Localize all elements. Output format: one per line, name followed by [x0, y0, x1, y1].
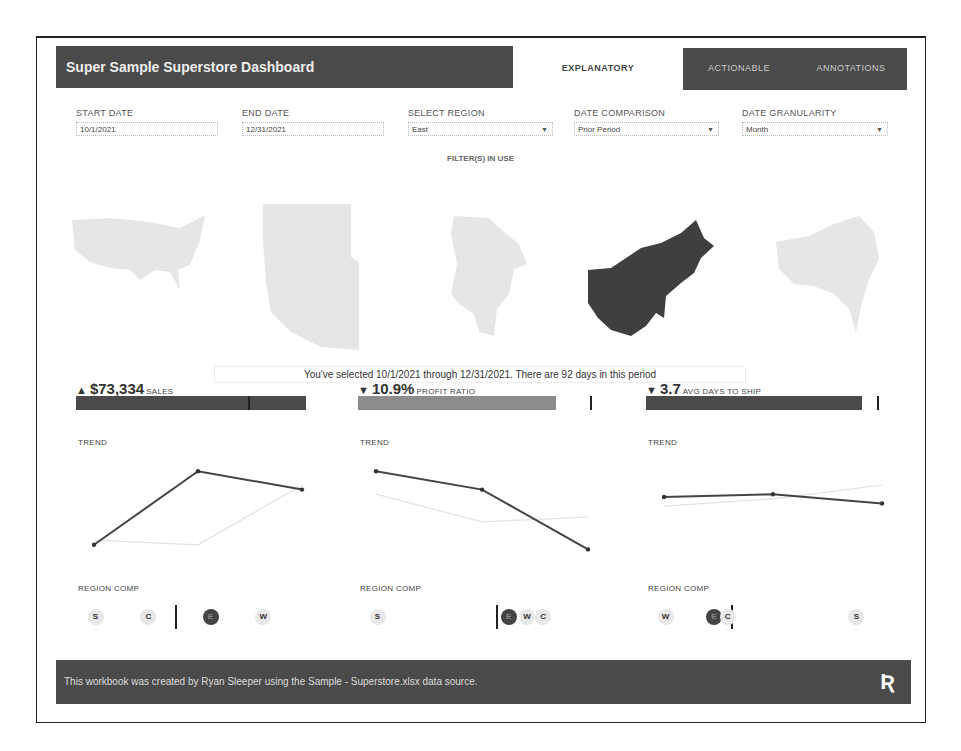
- start-date-input[interactable]: 10/1/2021: [76, 122, 218, 136]
- filters-in-use-label: FILTER(S) IN USE: [0, 154, 961, 163]
- tab-group: ACTIONABLE ANNOTATIONS: [683, 48, 907, 90]
- region-bubble-s[interactable]: S: [370, 609, 386, 625]
- down-arrow-icon: ▼: [646, 384, 657, 396]
- region-select[interactable]: East ▼: [408, 122, 553, 136]
- map-shape-east[interactable]: [588, 220, 714, 336]
- trend-point[interactable]: [92, 543, 96, 547]
- up-arrow-icon: ▲: [76, 384, 87, 396]
- trend-line-prior: [376, 494, 588, 522]
- trend-chart: [660, 458, 886, 558]
- date-granularity-filter: DATE GRANULARITY Month ▼: [742, 108, 888, 136]
- header: Super Sample Superstore Dashboard EXPLAN…: [56, 46, 903, 90]
- start-date-label: START DATE: [76, 108, 218, 118]
- map-shape-all[interactable]: [72, 215, 205, 290]
- kpi-name: AVG DAYS TO SHIP: [683, 387, 761, 396]
- map-shape-south[interactable]: [776, 216, 879, 332]
- region-select-value: East: [412, 125, 428, 134]
- kpi-bar: [358, 396, 556, 410]
- date-comparison-label: DATE COMPARISON: [574, 108, 719, 118]
- kpi-bar: [646, 396, 862, 410]
- region-bubble-e[interactable]: E: [501, 609, 517, 625]
- region-bubble-s[interactable]: S: [88, 609, 104, 625]
- map-south[interactable]: [774, 214, 884, 334]
- region-comp-label: REGION COMP: [78, 584, 139, 593]
- tab-annotations[interactable]: ANNOTATIONS: [795, 48, 907, 88]
- region-bubble-w[interactable]: W: [519, 609, 535, 625]
- kpi-value-text: $73,334: [90, 380, 144, 397]
- filter-bar: START DATE 10/1/2021 END DATE 12/31/2021…: [76, 108, 896, 148]
- map-west[interactable]: [261, 202, 361, 352]
- kpi-target-tick: [248, 396, 250, 410]
- region-filter: SELECT REGION East ▼: [408, 108, 553, 136]
- kpi-value-text: 10.9%: [372, 380, 415, 397]
- region-bubble-e[interactable]: E: [203, 609, 219, 625]
- region-bubble-c[interactable]: C: [720, 609, 736, 625]
- kpi-value: ▲$73,334: [76, 380, 144, 397]
- trend-point[interactable]: [586, 547, 590, 551]
- footer: This workbook was created by Ryan Sleepe…: [56, 660, 911, 704]
- logo-icon: Ʀ: [880, 660, 895, 704]
- map-east[interactable]: [586, 218, 731, 336]
- end-date-label: END DATE: [242, 108, 384, 118]
- map-central[interactable]: [449, 214, 529, 339]
- region-bubble-w[interactable]: W: [658, 609, 674, 625]
- trend-chart: [90, 458, 306, 558]
- end-date-input[interactable]: 12/31/2021: [242, 122, 384, 136]
- region-bubble-c[interactable]: C: [535, 609, 551, 625]
- kpi-value: ▼3.7: [646, 380, 681, 397]
- trend-point[interactable]: [374, 469, 378, 473]
- date-comparison-filter: DATE COMPARISON Prior Period ▼: [574, 108, 719, 136]
- kpi-target-tick: [877, 396, 879, 410]
- dropdown-arrow-icon: ▼: [876, 123, 883, 137]
- map-shape-central[interactable]: [451, 216, 527, 336]
- tab-actionable[interactable]: ACTIONABLE: [683, 48, 795, 88]
- kpi-bar: [76, 396, 306, 410]
- map-shape-west[interactable]: [263, 204, 359, 350]
- kpi-name: PROFIT RATIO: [416, 387, 475, 396]
- trend-line-prior: [94, 485, 302, 545]
- trend-label: TREND: [360, 438, 389, 447]
- region-comp-label: REGION COMP: [648, 584, 709, 593]
- down-arrow-icon: ▼: [358, 384, 369, 396]
- dropdown-arrow-icon: ▼: [541, 123, 548, 137]
- map-all-us[interactable]: [70, 210, 210, 295]
- date-granularity-value: Month: [746, 125, 768, 134]
- trend-point[interactable]: [480, 487, 484, 491]
- kpi-value: ▼10.9%: [358, 380, 414, 397]
- trend-label: TREND: [648, 438, 677, 447]
- kpi-target-tick: [590, 396, 592, 410]
- date-granularity-select[interactable]: Month ▼: [742, 122, 888, 136]
- date-comparison-value: Prior Period: [578, 125, 620, 134]
- trend-point[interactable]: [880, 501, 884, 505]
- trend-chart: [372, 458, 592, 558]
- trend-point[interactable]: [662, 495, 666, 499]
- region-label: SELECT REGION: [408, 108, 553, 118]
- trend-point[interactable]: [300, 487, 304, 491]
- trend-line-current: [376, 471, 588, 549]
- trend-point[interactable]: [196, 469, 200, 473]
- date-comparison-select[interactable]: Prior Period ▼: [574, 122, 719, 136]
- region-comp-marker: [496, 605, 498, 629]
- kpi-value-text: 3.7: [660, 380, 681, 397]
- tab-explanatory[interactable]: EXPLANATORY: [523, 48, 673, 88]
- dashboard-title: Super Sample Superstore Dashboard: [56, 46, 513, 88]
- region-comp-marker: [175, 605, 177, 629]
- end-date-filter: END DATE 12/31/2021: [242, 108, 384, 136]
- trend-point[interactable]: [771, 492, 775, 496]
- date-granularity-label: DATE GRANULARITY: [742, 108, 888, 118]
- trend-label: TREND: [78, 438, 107, 447]
- region-comp-label: REGION COMP: [360, 584, 421, 593]
- start-date-filter: START DATE 10/1/2021: [76, 108, 218, 136]
- kpi-name: SALES: [146, 387, 173, 396]
- footer-credit: This workbook was created by Ryan Sleepe…: [64, 676, 478, 687]
- trend-line-current: [94, 471, 302, 545]
- region-maps: [56, 170, 906, 350]
- dropdown-arrow-icon: ▼: [707, 123, 714, 137]
